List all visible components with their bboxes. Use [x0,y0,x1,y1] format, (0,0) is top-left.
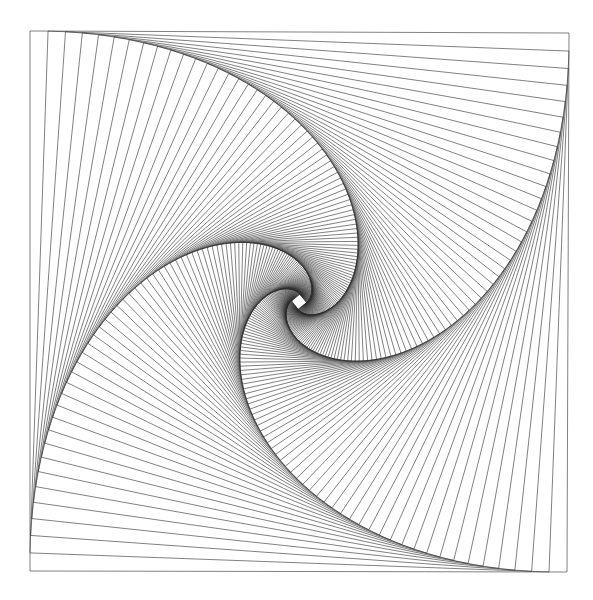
whirling-squares-figure: Whirling squares spiral Nested rotating … [0,0,593,600]
